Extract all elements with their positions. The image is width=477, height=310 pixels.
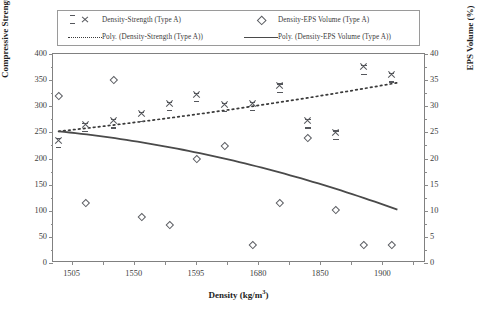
y-axis-right-tick-label: 25	[430, 127, 460, 136]
legend-label: Poly. (Density-EPS Volume (Type A))	[278, 33, 391, 41]
y-axis-right-tick	[424, 237, 428, 238]
y-axis-left-tick	[49, 159, 53, 160]
x-marker-icon	[68, 13, 102, 27]
y-axis-right-tick	[424, 211, 428, 212]
x-axis-tick	[413, 261, 414, 265]
legend-item-density-eps-volume: Density-EPS Volume (Type A)	[244, 11, 369, 29]
data-point-strength	[331, 128, 340, 137]
y-axis-left-minor-tick	[51, 250, 54, 251]
y-axis-left-minor-tick	[51, 67, 54, 68]
data-point-strength	[248, 99, 257, 108]
y-axis-left-tick-label: 200	[13, 153, 47, 162]
legend-item-poly-density-strength: Poly. (Density-Strength (Type A))	[68, 28, 203, 46]
legend-label: Poly. (Density-Strength (Type A))	[102, 33, 203, 41]
solid-trendline	[59, 131, 398, 209]
y-axis-right-minor-tick	[424, 119, 427, 120]
chart-legend: Density-Strength (Type A) Density-EPS Vo…	[57, 10, 420, 46]
y-axis-left-tick-label: 350	[13, 75, 47, 84]
y-axis-left-minor-tick	[51, 172, 54, 173]
y-axis-left-tick-label: 0	[13, 258, 47, 267]
y-axis-left-tick	[49, 263, 53, 264]
y-axis-left-tick	[49, 54, 53, 55]
y-axis-right-minor-tick	[424, 67, 427, 68]
data-point-strength	[359, 63, 368, 72]
y-axis-right-tick	[424, 263, 428, 264]
x-axis-tick-label: 1550	[111, 269, 157, 278]
y-axis-right-minor-tick	[424, 198, 427, 199]
y-axis-right-minor-tick	[424, 250, 427, 251]
data-point-strength	[275, 81, 284, 90]
x-axis-title: Density (kg/m3)	[0, 288, 477, 300]
legend-label: Density-EPS Volume (Type A)	[278, 16, 369, 24]
legend-item-density-strength: Density-Strength (Type A)	[68, 11, 181, 29]
y-axis-left-tick	[49, 106, 53, 107]
legend-item-poly-density-eps-volume: Poly. (Density-EPS Volume (Type A))	[244, 28, 391, 46]
data-point-strength	[81, 120, 90, 129]
y-axis-left-minor-tick	[51, 93, 54, 94]
x-axis-tick	[320, 261, 321, 265]
solid-line-icon	[244, 30, 278, 44]
y-axis-right-minor-tick	[424, 224, 427, 225]
x-axis-tick	[382, 261, 383, 265]
data-point-strength	[192, 90, 201, 99]
y-axis-right-tick	[424, 185, 428, 186]
y-axis-left-tick-label: 150	[13, 179, 47, 188]
y-axis-right-minor-tick	[424, 145, 427, 146]
y-axis-left-tick-label: 250	[13, 127, 47, 136]
x-axis-tick	[72, 261, 73, 265]
dotted-line-icon	[68, 30, 102, 44]
data-point-strength	[137, 110, 146, 119]
chart-screenshot: { "legend": { "entries": [ {"symbol": "x…	[0, 0, 477, 310]
x-axis-tick	[103, 261, 104, 265]
x-axis-tick-label: 1505	[49, 269, 95, 278]
y-axis-left-minor-tick	[51, 224, 54, 225]
x-axis-tick-label: 1595	[173, 269, 219, 278]
y-axis-right-tick	[424, 159, 428, 160]
y-axis-left-tick-label: 400	[13, 49, 47, 58]
y-axis-left-tick-label: 100	[13, 205, 47, 214]
legend-row: Poly. (Density-Strength (Type A)) Poly. …	[58, 28, 419, 46]
y-axis-right-tick	[424, 106, 428, 107]
x-axis-tick	[227, 261, 228, 265]
y-axis-left-tick	[49, 132, 53, 133]
x-axis-tick	[351, 261, 352, 265]
y-axis-right-tick-label: 0	[430, 258, 460, 267]
x-axis-tick	[134, 261, 135, 265]
data-point-strength	[165, 99, 174, 108]
y-axis-right-minor-tick	[424, 172, 427, 173]
y-axis-left-tick-label: 300	[13, 101, 47, 110]
data-point-strength	[54, 136, 63, 145]
y-axis-left-minor-tick	[51, 145, 54, 146]
y-axis-right-title: EPS Volume (%)	[465, 0, 475, 108]
y-axis-right-tick-label: 30	[430, 101, 460, 110]
data-point-strength	[387, 70, 396, 79]
y-axis-left-tick-label: 50	[13, 231, 47, 240]
y-axis-right-tick-label: 5	[430, 231, 460, 240]
diamond-marker-icon	[244, 13, 278, 27]
legend-label: Density-Strength (Type A)	[102, 16, 181, 24]
y-axis-left-minor-tick	[51, 198, 54, 199]
y-axis-left-tick	[49, 185, 53, 186]
x-axis-tick	[165, 261, 166, 265]
y-axis-right-tick-label: 35	[430, 75, 460, 84]
y-axis-right-tick-label: 10	[430, 205, 460, 214]
y-axis-right-tick-label: 15	[430, 179, 460, 188]
y-axis-right-tick	[424, 80, 428, 81]
trendline-layer	[53, 54, 426, 263]
plot-area: 0501001502002503003504000510152025303540…	[52, 53, 425, 262]
data-point-strength	[109, 116, 118, 125]
data-point-strength	[303, 116, 312, 125]
y-axis-right-tick-label: 40	[430, 49, 460, 58]
y-axis-right-tick	[424, 132, 428, 133]
y-axis-left-tick	[49, 237, 53, 238]
legend-row: Density-Strength (Type A) Density-EPS Vo…	[58, 11, 419, 29]
y-axis-left-tick	[49, 80, 53, 81]
x-axis-tick-label: 1680	[235, 269, 281, 278]
x-axis-tick	[196, 261, 197, 265]
x-axis-tick	[258, 261, 259, 265]
x-axis-tick-label: 1850	[297, 269, 343, 278]
y-axis-left-title: Compressive Strength (kg/cm2)	[0, 0, 10, 98]
x-axis-tick	[289, 261, 290, 265]
x-axis-tick-label: 1900	[359, 269, 405, 278]
plot-inner: 0501001502002503003504000510152025303540…	[53, 54, 424, 261]
